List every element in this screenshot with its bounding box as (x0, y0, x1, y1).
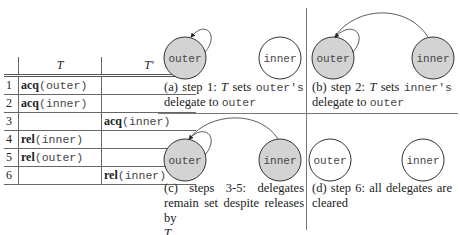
caption-a: (a) step 1: T sets outer's delegate to o… (164, 80, 304, 110)
cell-T: rel(outer) (19, 149, 102, 167)
panel-b: outer inner (b) step 2: T sets inner's d… (308, 0, 456, 117)
inner-label: inner (263, 53, 296, 65)
step-number: 1 (4, 76, 19, 95)
caption-c: (c) steps 3-5: delegates remain set desp… (164, 181, 304, 235)
cell-T: acq(inner) (19, 95, 102, 113)
step-number: 6 (4, 167, 19, 185)
outer-label: outer (168, 155, 201, 167)
col-header-T: T (19, 57, 102, 76)
caption-b: (b) step 2: T sets inner's delegate to o… (312, 80, 452, 110)
cell-T: rel(inner) (19, 131, 102, 149)
panel-a-graph: outer inner (160, 0, 308, 80)
col-header-step (4, 57, 19, 76)
panel-a: outer inner (a) step 1: T sets outer's d… (160, 0, 308, 117)
cell-T (19, 167, 102, 185)
panel-d: outer inner (d) step 6: all delegates ar… (308, 115, 456, 232)
cell-T: acq(outer) (19, 76, 102, 95)
inner-label: inner (263, 155, 296, 167)
inner-to-outer-arrow (335, 13, 428, 37)
panel-c: outer inner (c) steps 3-5: delegates rem… (160, 115, 308, 232)
outer-label: outer (168, 53, 201, 65)
outer-label: outer (313, 155, 346, 167)
inner-to-outer-arrow (190, 118, 278, 139)
inner-label: inner (406, 155, 439, 167)
step-number: 5 (4, 149, 19, 167)
step-number: 3 (4, 113, 19, 131)
cell-T (19, 113, 102, 131)
step-number: 2 (4, 95, 19, 113)
caption-d: (d) step 6: all delegates are cleared (312, 181, 452, 211)
step-number: 4 (4, 131, 19, 149)
outer-label: outer (316, 53, 349, 65)
panel-b-graph: outer inner (308, 0, 460, 80)
inner-label: inner (416, 53, 449, 65)
